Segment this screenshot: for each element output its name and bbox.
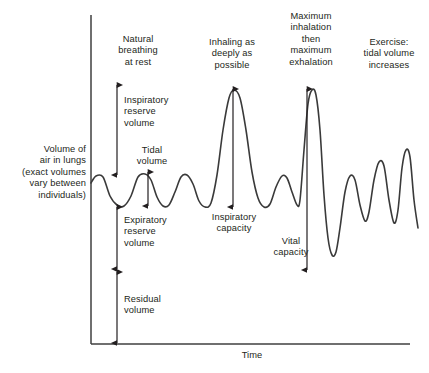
label-tidal-volume: Tidal volume xyxy=(124,145,180,168)
label-vital-capacity: Vital capacity xyxy=(266,236,316,259)
phase-label-exercise: Exercise: tidal volume increases xyxy=(350,37,428,71)
y-axis-label: Volume of air in lungs (exact volumes va… xyxy=(2,144,86,201)
label-residual-volume: Residual volume xyxy=(124,294,194,317)
label-inspiratory-capacity: Inspiratory capacity xyxy=(196,212,272,235)
label-expiratory-reserve-volume: Expiratory reserve volume xyxy=(124,215,198,249)
phase-label-max-inhale-exhale: Maximum inhalation then maximum exhalati… xyxy=(268,11,354,68)
x-axis-label: Time xyxy=(212,350,292,361)
phase-label-natural-breathing: Natural breathing at rest xyxy=(98,34,178,68)
phase-label-deep-inhalation: Inhaling as deeply as possible xyxy=(190,37,274,71)
label-inspiratory-reserve-volume: Inspiratory reserve volume xyxy=(124,95,198,129)
